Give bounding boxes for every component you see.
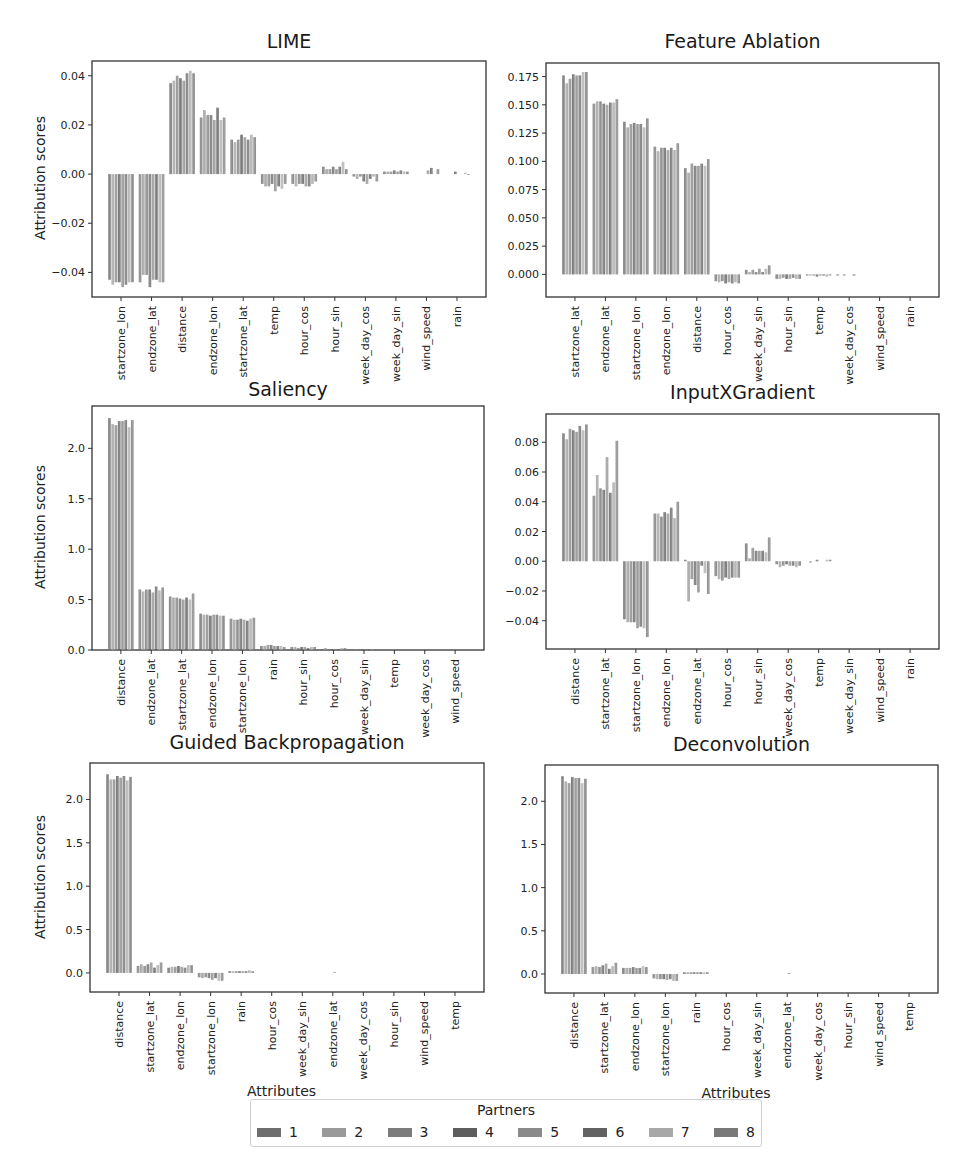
y-tick-label: 0.5 xyxy=(521,925,539,938)
bar-partner-6 xyxy=(308,174,310,186)
x-tick-label: hour_cos xyxy=(266,1001,279,1050)
bar-partner-7 xyxy=(251,135,253,174)
y-tick-label: 1.0 xyxy=(68,543,86,556)
bar-partner-8 xyxy=(707,561,709,594)
bar-partner-4 xyxy=(572,430,574,561)
x-tick-label: endzone_lon xyxy=(206,659,219,728)
bar-partner-7 xyxy=(187,965,189,973)
bar-partner-1 xyxy=(685,560,687,561)
bar-partner-8 xyxy=(799,561,801,565)
bar-partner-5 xyxy=(637,124,639,274)
legend-swatch-icon xyxy=(257,1128,281,1137)
bar-partner-8 xyxy=(645,967,647,974)
legend-label: 8 xyxy=(746,1124,755,1140)
bar-partner-4 xyxy=(693,972,695,974)
bar-partner-7 xyxy=(613,482,615,561)
bar-partner-3 xyxy=(205,973,207,977)
bar-partner-8 xyxy=(738,561,740,577)
bar-partner-1 xyxy=(109,418,111,650)
bar-partner-6 xyxy=(215,973,217,978)
bar-partner-7 xyxy=(582,430,584,561)
bar-partner-8 xyxy=(162,587,164,650)
x-tick-label: endzone_lon xyxy=(207,306,220,375)
bar-partner-2 xyxy=(749,558,751,561)
bar-partner-2 xyxy=(626,968,628,974)
bar-partner-6 xyxy=(762,272,764,274)
legend-label: 1 xyxy=(289,1124,298,1140)
bar-partner-6 xyxy=(579,75,581,274)
bar-partner-3 xyxy=(174,967,176,973)
bar-partner-4 xyxy=(664,148,666,275)
y-tick-label: 0.5 xyxy=(66,924,84,937)
bar-partner-2 xyxy=(810,561,812,562)
legend-item-partner-6: 6 xyxy=(583,1124,624,1140)
bar-partner-5 xyxy=(637,561,639,628)
x-tick-label: week_day_cos xyxy=(812,1002,825,1081)
bar-partner-5 xyxy=(366,174,368,184)
bar-partner-7 xyxy=(643,561,645,628)
x-tick-label: week_day_cos xyxy=(419,659,432,738)
x-tick-label: hour_cos xyxy=(721,658,734,707)
x-tick-label: hour_sin xyxy=(329,306,342,352)
bar-partner-4 xyxy=(149,590,151,650)
bar-partner-1 xyxy=(107,774,109,973)
bar-partner-8 xyxy=(223,118,225,175)
bar-partner-8 xyxy=(284,174,286,184)
bar-partner-5 xyxy=(636,968,638,974)
x-tick-label: week_day_sin xyxy=(358,659,371,735)
y-tick-label: 1.0 xyxy=(66,880,84,893)
bar-partner-2 xyxy=(232,971,234,973)
x-tick-label: startzone_lon xyxy=(659,1002,672,1076)
x-tick-label: startzone_lat xyxy=(237,305,250,377)
bar-partner-3 xyxy=(568,783,570,974)
bar-partner-2 xyxy=(688,561,690,601)
bar-partner-8 xyxy=(468,174,470,175)
bar-partner-1 xyxy=(593,104,595,275)
bar-partner-4 xyxy=(455,172,457,174)
bar-partner-7 xyxy=(582,72,584,274)
bar-partner-1 xyxy=(592,967,594,974)
x-tick-label: startzone_lat xyxy=(599,657,612,729)
bar-partner-6 xyxy=(578,778,580,974)
bar-partner-2 xyxy=(596,101,598,274)
bar-partner-8 xyxy=(677,502,679,561)
bar-partner-7 xyxy=(157,965,159,973)
x-tick-label: endzone_lat xyxy=(781,1001,794,1068)
bar-partner-7 xyxy=(220,120,222,174)
x-tick-label: rain xyxy=(451,306,464,327)
bar-partner-1 xyxy=(806,274,808,275)
bar-partner-1 xyxy=(384,172,386,174)
bar-partner-8 xyxy=(314,647,316,650)
bar-partner-6 xyxy=(400,170,402,174)
x-tick-label: wind_speed xyxy=(873,1002,886,1067)
bar-partner-4 xyxy=(755,551,757,561)
bar-partner-1 xyxy=(715,561,717,576)
bar-partner-2 xyxy=(656,974,658,979)
y-tick-label: 0.06 xyxy=(515,466,540,479)
bar-partner-6 xyxy=(853,274,855,275)
bar-partner-7 xyxy=(796,274,798,279)
bar-partner-6 xyxy=(701,164,703,275)
x-tick-label: temp xyxy=(388,659,401,688)
bar-partner-3 xyxy=(722,561,724,580)
y-tick-label: 0.025 xyxy=(508,240,540,253)
bar-partner-6 xyxy=(640,124,642,274)
bar-partner-6 xyxy=(154,968,156,973)
bar-partner-5 xyxy=(275,174,277,191)
bar-partner-3 xyxy=(329,169,331,174)
x-tick-label: startzone_lon xyxy=(236,659,249,733)
bar-partner-5 xyxy=(698,561,700,592)
bar-partner-2 xyxy=(627,561,629,622)
bar-partner-7 xyxy=(673,974,675,981)
bar-partner-1 xyxy=(139,174,141,282)
bar-partner-7 xyxy=(464,173,466,174)
x-tick-label: wind_speed xyxy=(418,1001,431,1066)
legend-swatch-icon xyxy=(714,1128,738,1137)
plot-area: 0.00.51.01.52.0distancestartzone_latendz… xyxy=(20,763,554,1122)
chart-title: Saliency xyxy=(92,378,484,400)
y-tick-label: 1.5 xyxy=(68,493,86,506)
bar-partner-1 xyxy=(654,514,656,562)
bar-partner-8 xyxy=(253,618,255,650)
bar-partner-8 xyxy=(162,174,164,282)
plot-area: 0.00.51.01.52.0distanceendzone_latstartz… xyxy=(22,406,554,780)
